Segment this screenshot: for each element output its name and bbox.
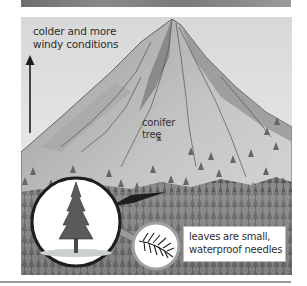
previous-illustration-strip bbox=[21, 0, 291, 7]
bottom-divider bbox=[0, 281, 291, 283]
altitude-label-line2: windy conditions bbox=[33, 38, 118, 51]
needle-caption-box: leaves are small, waterproof needles bbox=[183, 226, 286, 262]
altitude-label: colder and more windy conditions bbox=[33, 25, 118, 51]
conifer-label-line2: tree bbox=[142, 129, 175, 141]
conifer-label-line1: conifer bbox=[142, 117, 175, 129]
mountain-conifer-illustration: colder and more windy conditions conifer… bbox=[21, 17, 292, 275]
conifer-tree-magnifier bbox=[32, 178, 120, 266]
needle-caption-line1: leaves are small, bbox=[189, 230, 285, 243]
conifer-tree-label: conifer tree bbox=[142, 117, 175, 141]
needle-leaf-magnifier bbox=[133, 223, 179, 269]
needle-caption-line2: waterproof needles bbox=[189, 243, 285, 256]
altitude-label-line1: colder and more bbox=[33, 25, 118, 38]
